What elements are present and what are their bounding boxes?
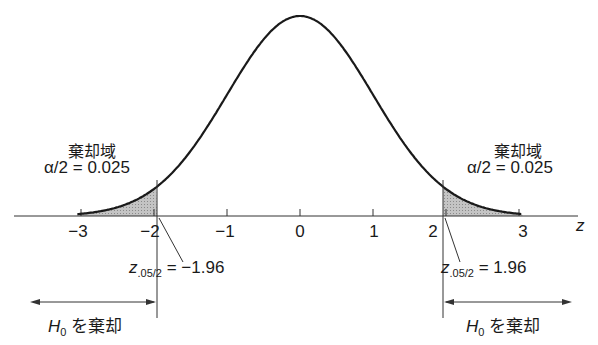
- right-reject-h0-label: H0 を棄却: [466, 312, 540, 338]
- critical-var: z: [129, 258, 138, 277]
- left-reject-h0-label: H0 を棄却: [48, 312, 122, 338]
- tick-label-2: 2: [428, 222, 437, 242]
- left-arrowhead-left: [30, 299, 40, 305]
- normal-curve: [77, 16, 521, 214]
- left-critical-value-label: z.05/2 = −1.96: [129, 258, 224, 279]
- right-rejection-area: [443, 187, 522, 216]
- left-arrowhead-right: [146, 299, 156, 305]
- tick-label-neg2: −2: [140, 222, 159, 242]
- reject-text: を棄却: [66, 317, 122, 336]
- h-var: H: [466, 317, 478, 336]
- left-alpha-label: α/2 = 0.025: [44, 158, 130, 178]
- axis-label-z: z: [576, 216, 585, 236]
- h-var: H: [48, 317, 60, 336]
- tick-label-1: 1: [369, 222, 378, 242]
- right-arrowhead-left: [444, 299, 454, 305]
- critical-sub: .05/2: [138, 267, 162, 279]
- tick-label-neg1: −1: [215, 222, 234, 242]
- right-alpha-label: α/2 = 0.025: [467, 158, 553, 178]
- critical-var: z: [441, 258, 450, 277]
- critical-sub: .05/2: [450, 267, 474, 279]
- tick-label-0: 0: [295, 222, 304, 242]
- critical-value: = −1.96: [162, 258, 224, 277]
- tick-label-neg3: −3: [68, 222, 87, 242]
- right-arrowhead-right: [562, 299, 572, 305]
- critical-value: = 1.96: [474, 258, 526, 277]
- right-critical-value-label: z.05/2 = 1.96: [441, 258, 526, 279]
- tick-label-3: 3: [518, 222, 527, 242]
- left-leader-line: [159, 218, 183, 262]
- reject-text: を棄却: [484, 317, 540, 336]
- left-rejection-area: [77, 187, 156, 216]
- right-leader-line: [445, 218, 460, 262]
